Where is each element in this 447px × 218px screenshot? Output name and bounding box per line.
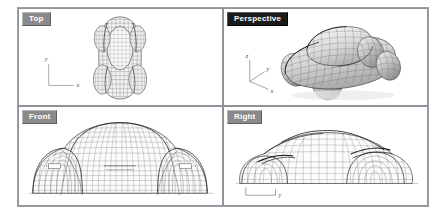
svg-text:x: x: [75, 81, 79, 88]
svg-text:z: z: [245, 52, 249, 59]
axis-gizmo-right: y: [246, 187, 282, 198]
viewport-right[interactable]: Right: [223, 106, 428, 206]
viewport-front[interactable]: Front: [18, 106, 223, 206]
viewport-title-top[interactable]: Top: [22, 12, 51, 26]
svg-text:x: x: [270, 87, 274, 94]
viewport-title-right[interactable]: Right: [227, 110, 262, 124]
viewport-perspective[interactable]: Perspective: [223, 8, 428, 106]
model-top-view: [92, 14, 147, 102]
svg-text:y: y: [266, 65, 270, 72]
model-right-view: y: [234, 130, 420, 199]
viewport-top[interactable]: Top y: [18, 8, 223, 106]
axis-gizmo-top: y x: [44, 55, 80, 88]
viewport-grid: Top y: [17, 7, 429, 207]
svg-text:y: y: [277, 191, 281, 198]
model-perspective-view: [277, 21, 404, 104]
axis-gizmo-perspective: z y x: [245, 52, 274, 94]
viewport-title-front[interactable]: Front: [22, 110, 57, 124]
model-front-view: [27, 119, 215, 197]
svg-text:y: y: [44, 55, 48, 62]
viewport-title-perspective[interactable]: Perspective: [227, 12, 288, 26]
application-screenshot: Top y: [0, 0, 447, 218]
